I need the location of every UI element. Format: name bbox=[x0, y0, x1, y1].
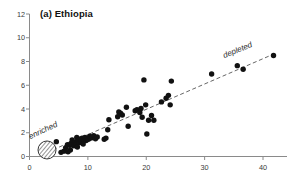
data-point bbox=[143, 102, 148, 107]
scatter-plot-svg bbox=[0, 0, 301, 186]
data-point bbox=[138, 106, 143, 111]
data-point bbox=[75, 144, 80, 149]
data-point bbox=[120, 112, 125, 117]
data-point bbox=[169, 78, 174, 83]
data-point bbox=[166, 93, 171, 98]
data-point bbox=[240, 67, 245, 72]
x-tick-label: 10 bbox=[76, 163, 100, 172]
data-point bbox=[54, 139, 59, 144]
data-point bbox=[235, 63, 240, 68]
data-point bbox=[146, 118, 151, 123]
data-points bbox=[54, 53, 277, 155]
y-tick-label: 8 bbox=[8, 57, 25, 66]
data-point bbox=[124, 105, 129, 110]
y-tick-label: 2 bbox=[8, 128, 25, 137]
chart-figure: (a) Ethiopia enriched depleted 024681012… bbox=[0, 0, 301, 186]
y-tick-label: 12 bbox=[8, 10, 25, 19]
data-point bbox=[125, 124, 130, 129]
data-point bbox=[95, 134, 100, 139]
y-tick-label: 0 bbox=[8, 152, 25, 161]
data-point bbox=[106, 117, 111, 122]
data-point bbox=[141, 77, 146, 82]
data-point bbox=[65, 149, 70, 154]
x-tick-label: 20 bbox=[134, 163, 158, 172]
y-tick-label: 6 bbox=[8, 81, 25, 90]
data-point bbox=[149, 113, 154, 118]
data-point bbox=[105, 127, 110, 132]
data-point bbox=[144, 131, 149, 136]
hatched-circle-marker bbox=[38, 141, 56, 159]
data-point bbox=[209, 71, 214, 76]
data-point bbox=[81, 141, 86, 146]
axis-group bbox=[26, 14, 287, 160]
x-tick-label: 0 bbox=[18, 163, 42, 172]
data-point bbox=[151, 118, 156, 123]
data-point bbox=[271, 53, 276, 58]
y-tick-label: 4 bbox=[8, 105, 25, 114]
y-tick-label: 10 bbox=[8, 33, 25, 42]
x-tick-label: 30 bbox=[193, 163, 217, 172]
data-point bbox=[159, 99, 164, 104]
hatched-circle-icon bbox=[38, 141, 56, 159]
data-point bbox=[103, 135, 108, 140]
data-point bbox=[167, 102, 172, 107]
data-point bbox=[139, 115, 144, 120]
x-tick-label: 40 bbox=[251, 163, 275, 172]
